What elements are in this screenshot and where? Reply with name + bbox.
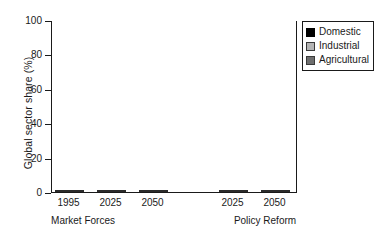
x-tick-label-market-forces-2050: 2050 bbox=[125, 197, 181, 208]
legend-label-agricultural: Agricultural bbox=[319, 55, 369, 65]
bar-market-forces-1995 bbox=[55, 190, 84, 192]
y-tick-label: 20 bbox=[2, 154, 42, 164]
bar-market-forces-2025 bbox=[97, 190, 126, 192]
group-label-policy-reform: Policy Reform bbox=[205, 215, 325, 226]
legend-item-domestic: Domestic bbox=[306, 25, 369, 39]
y-tick-label: 80 bbox=[2, 50, 42, 60]
group-label-market-forces: Market Forces bbox=[23, 215, 143, 226]
legend-swatch-agricultural-icon bbox=[306, 56, 315, 65]
plot-area bbox=[51, 21, 297, 193]
y-tick-label: 100 bbox=[2, 16, 42, 26]
y-tick-label: 0 bbox=[2, 188, 42, 198]
legend-item-industrial: Industrial bbox=[306, 39, 369, 53]
chart-legend: Domestic Industrial Agricultural bbox=[302, 21, 374, 71]
bar-segment-agricultural bbox=[55, 191, 84, 192]
y-tick-label: 60 bbox=[2, 85, 42, 95]
bar-segment-agricultural bbox=[97, 191, 126, 192]
x-tick-label-policy-reform-2050: 2050 bbox=[247, 197, 303, 208]
stacked-bar-chart: Global sector share (%) 100 80 60 40 20 … bbox=[0, 0, 385, 241]
bar-policy-reform-2050 bbox=[261, 190, 290, 192]
bar-segment-agricultural bbox=[219, 191, 248, 192]
bar-segment-agricultural bbox=[261, 191, 290, 192]
y-tick-mark bbox=[45, 193, 51, 194]
bar-segment-agricultural bbox=[139, 191, 168, 192]
bar-policy-reform-2025 bbox=[219, 190, 248, 192]
legend-swatch-industrial-icon bbox=[306, 42, 315, 51]
legend-label-domestic: Domestic bbox=[319, 27, 361, 37]
legend-item-agricultural: Agricultural bbox=[306, 53, 369, 67]
legend-swatch-domestic-icon bbox=[306, 28, 315, 37]
bar-market-forces-2050 bbox=[139, 190, 168, 192]
y-tick-label: 40 bbox=[2, 119, 42, 129]
legend-label-industrial: Industrial bbox=[319, 41, 360, 51]
